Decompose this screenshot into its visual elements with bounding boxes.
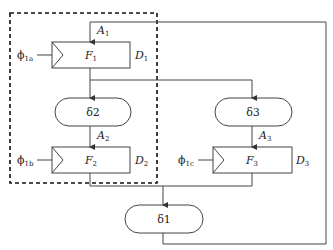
label-a2: A2 xyxy=(97,130,109,143)
label-phi-1b: ϕ1b xyxy=(17,155,33,168)
label-f2: F2 xyxy=(85,155,97,168)
label-f3: F3 xyxy=(246,155,258,168)
label-delta1: δ1 xyxy=(157,214,171,225)
label-phi-1a: ϕ1a xyxy=(17,50,33,63)
label-f1: F1 xyxy=(85,50,97,63)
label-d1: D1 xyxy=(135,50,148,63)
label-d2: D2 xyxy=(135,155,148,168)
label-d3: D3 xyxy=(296,155,309,168)
clock-triangle-f3-icon xyxy=(213,147,224,173)
label-phi-1c: ϕ1c xyxy=(178,155,194,168)
wire-f3-d1 xyxy=(163,173,252,186)
label-delta2: δ2 xyxy=(86,107,100,118)
label-a3: A3 xyxy=(259,130,271,143)
wire-feedback-a1 xyxy=(90,22,326,244)
clock-triangle-f2-icon xyxy=(52,147,63,173)
label-delta3: δ3 xyxy=(246,107,260,118)
wire-f1-d3 xyxy=(90,80,252,98)
clock-triangle-f1-icon xyxy=(52,42,63,68)
wire-f2-d1 xyxy=(90,173,163,205)
label-a1: A1 xyxy=(97,25,109,38)
